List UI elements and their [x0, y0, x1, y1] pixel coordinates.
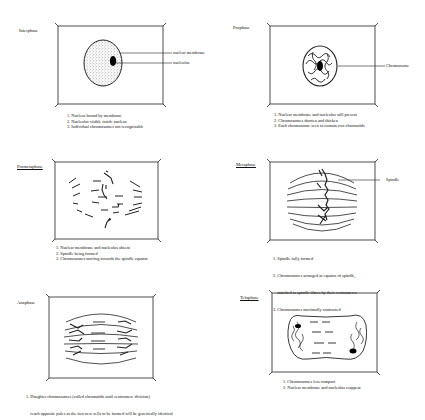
note-item: 2. Chromosomes arranged at equator of sp…: [273, 273, 357, 279]
callout-chromosome: Chromosome: [386, 63, 409, 68]
note-item: 2. Nuclear membrane and nucleolus reappe…: [283, 385, 361, 391]
note-item: 1. Daughter chromosomes (called chromati…: [26, 394, 173, 400]
note-item: 3. Each chromosome seen to contain two c…: [274, 123, 365, 129]
callout-nucleolus: nucleolus: [173, 60, 189, 65]
notes-prometaphase: 1. Nuclear membrane and nucleolus absent…: [56, 245, 148, 262]
stage-label-metaphase: Metaphase: [236, 162, 256, 167]
notes-telophase: 1. Chromosomes less compact 2. Nuclear m…: [283, 379, 361, 390]
stage-label-prophase: Prophase: [233, 25, 250, 30]
stage-label-anaphase: Anaphase: [17, 300, 35, 305]
notes-anaphase: 1. Daughter chromosomes (called chromati…: [26, 383, 173, 420]
interphase-cell-drawing: [55, 23, 172, 107]
notes-prophase: 1. Nuclear membrane and nucleolus still …: [274, 112, 365, 129]
note-item: 3. Individual chromosomes not recognizab…: [67, 124, 144, 130]
notes-interphase: 1. Nucleus bound by membrane 2. Nucleolu…: [67, 113, 144, 130]
note-item: 1. Spindle fully formed: [273, 256, 357, 262]
prophase-cell-drawing: [267, 23, 385, 107]
notes-metaphase: 1. Spindle fully formed 2. Chromosomes a…: [273, 245, 357, 323]
anaphase-cell-drawing: [46, 294, 156, 381]
note-item: reach opposite poles as the two new cell…: [26, 411, 173, 417]
note-item: 1. Nuclear membrane and nucleolus still …: [274, 112, 365, 118]
stage-label-telophase: Telophase: [240, 295, 259, 300]
callout-nuclear-membrane: nuclear membrane: [173, 50, 205, 55]
note-item: 3. Chromosomes moving towards the spindl…: [56, 256, 148, 262]
stage-label-interphase: Interphase: [19, 28, 38, 33]
stage-label-prometaphase: Prometaphase: [17, 164, 43, 169]
metaphase-cell-drawing: [267, 159, 380, 243]
callout-spindle: Spindle: [386, 177, 399, 182]
note-item: attached to spindle fibres by their cent…: [273, 290, 357, 296]
note-item: 3. Chromosomes maximally contracted: [273, 307, 357, 313]
prometaphase-cell-drawing: [52, 159, 161, 242]
